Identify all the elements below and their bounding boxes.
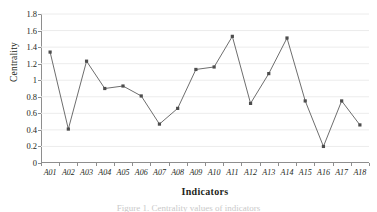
y-tick-label: 0.8 [26,92,37,102]
x-tick-label: A06 [135,168,148,177]
x-tick-mark [41,163,42,166]
x-tick-label: A01 [44,168,57,177]
x-tick-label: A16 [317,168,330,177]
y-tick-label: 1.8 [26,9,37,19]
x-tick-label: A17 [335,168,348,177]
data-point-marker: A03: 1.23 [85,60,88,63]
data-point-marker: A04: 0.9 [103,87,106,90]
x-tick-mark [114,163,115,166]
data-point-marker: A07: 0.47 [158,122,161,125]
y-tick-mark [38,14,41,15]
y-tick-label: 0.6 [26,108,37,118]
y-tick-mark [38,130,41,131]
x-tick-label: A04 [98,168,111,177]
x-tick-mark [369,163,370,166]
y-tick-mark [38,146,41,147]
x-tick-mark [59,163,60,166]
data-point-marker: A02: 0.41 [67,127,70,130]
x-tick-mark [260,163,261,166]
x-axis-title: Indicators [40,186,370,197]
data-point-marker: A14: 1.51 [285,36,288,39]
x-tick-mark [241,163,242,166]
x-tick-mark [278,163,279,166]
data-point-marker: A10: 1.16 [213,65,216,68]
x-tick-label: A13 [262,168,275,177]
data-point-marker: A12: 0.72 [249,102,252,105]
figure-caption: Figure 1. Centrality values of indicator… [0,203,377,212]
y-tick-label: 1.4 [26,42,37,52]
y-tick-label: 0.2 [26,141,37,151]
x-tick-mark [77,163,78,166]
x-tick-label: A10 [208,168,221,177]
y-tick-label: 0 [33,158,37,168]
x-tick-label: A05 [117,168,130,177]
data-point-marker: A16: 0.2 [322,145,325,148]
x-tick-label: A12 [244,168,257,177]
y-axis-title: Centrality [9,26,19,98]
x-tick-mark [187,163,188,166]
series-line [50,36,360,146]
y-tick-mark [38,80,41,81]
y-tick-label: 0.4 [26,125,37,135]
x-tick-mark [333,163,334,166]
y-tick-label: 1.2 [26,59,37,69]
data-point-marker: A05: 0.93 [121,84,124,87]
x-tick-mark [314,163,315,166]
data-point-marker: A13: 1.08 [267,72,270,75]
y-tick-label: 1 [33,75,37,85]
x-tick-label: A02 [62,168,75,177]
y-tick-mark [38,31,41,32]
x-tick-mark [205,163,206,166]
data-point-marker: A01: 1.34 [49,50,52,53]
data-point-marker: A17: 0.75 [340,99,343,102]
y-tick-mark [38,97,41,98]
y-tick-mark [38,113,41,114]
x-tick-label: A09 [189,168,202,177]
data-point-marker: A09: 1.13 [194,68,197,71]
x-tick-mark [169,163,170,166]
plot-area: A01: 1.34A02: 0.41A03: 1.23A04: 0.9A05: … [41,14,369,163]
y-tick-label: 1.6 [26,26,37,36]
y-tick-mark [38,47,41,48]
data-point-marker: A08: 0.66 [176,107,179,110]
x-tick-mark [96,163,97,166]
x-tick-label: A15 [299,168,312,177]
x-tick-label: A11 [226,168,238,177]
data-point-marker: A11: 1.53 [231,35,234,38]
x-tick-label: A03 [80,168,93,177]
x-tick-label: A08 [171,168,184,177]
data-point-marker: A06: 0.81 [140,94,143,97]
x-tick-mark [150,163,151,166]
data-point-marker: A18: 0.46 [358,123,361,126]
chart-figure: Centrality A01: 1.34A02: 0.41A03: 1.23A0… [0,0,377,212]
x-tick-label: A14 [281,168,294,177]
x-tick-mark [296,163,297,166]
x-tick-mark [132,163,133,166]
x-tick-label: A07 [153,168,166,177]
y-tick-mark [38,64,41,65]
x-tick-mark [351,163,352,166]
data-series-centrality: A01: 1.34A02: 0.41A03: 1.23A04: 0.9A05: … [41,14,369,163]
x-tick-mark [223,163,224,166]
data-point-marker: A15: 0.75 [304,99,307,102]
x-tick-label: A18 [353,168,366,177]
